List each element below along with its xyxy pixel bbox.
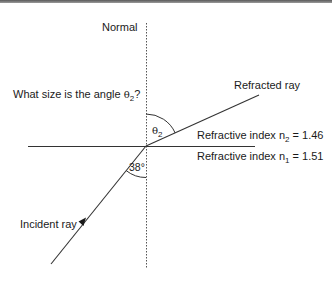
theta2-subscript: 2 [158,130,162,139]
incident-ray-label: Incident ray [20,218,77,231]
incident-angle-label: 38° [129,161,145,174]
question-prefix: What size is the angle [13,88,124,100]
normal-label: Normal [102,21,137,34]
medium2-prefix: Refractive index n [197,129,285,141]
medium1-index-label: Refractive index n1 = 1.51 [197,150,323,167]
question-text: What size is the angle θ2? [13,88,140,105]
medium1-value: = 1.51 [290,150,324,162]
medium2-index-label: Refractive index n2 = 1.46 [197,129,323,146]
refraction-diagram: Normal What size is the angle θ2? Refrac… [0,0,332,281]
refracted-ray-label: Refracted ray [234,79,300,92]
theta2-angle-label: θ2 [152,124,162,141]
medium1-prefix: Refractive index n [197,150,285,162]
medium2-value: = 1.46 [290,129,324,141]
question-suffix: ? [134,88,140,100]
